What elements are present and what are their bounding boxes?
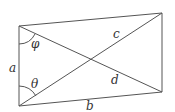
label-phi: φ [31,38,39,50]
diagonal-d [19,26,162,92]
diagram-canvas [0,0,175,112]
label-d: d [111,74,119,86]
label-b: b [86,100,94,112]
label-c: c [113,28,120,40]
label-theta: θ [31,78,38,90]
label-a: a [9,62,16,74]
